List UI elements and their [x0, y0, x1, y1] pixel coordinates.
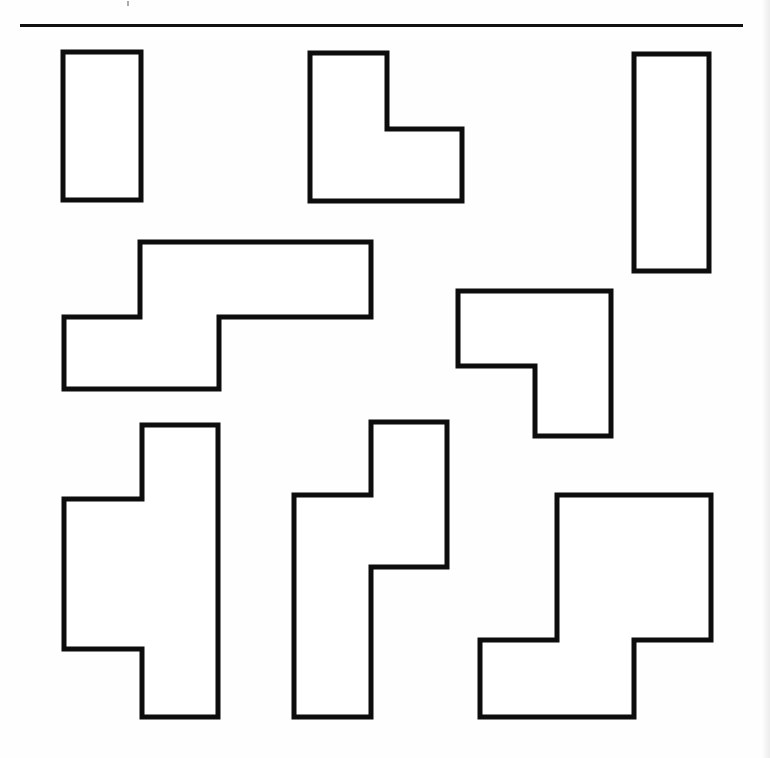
shape-vertical-rectangle-top-left[interactable]	[63, 52, 141, 200]
shape-l-shape-top-middle[interactable]	[310, 53, 462, 201]
shape-z-pentomino-bottom-right[interactable]	[480, 495, 711, 717]
shape-vertical-rectangle-top-right[interactable]	[634, 54, 709, 271]
paper-edge-shading	[762, 0, 770, 758]
shape-j-shape-middle-right[interactable]	[458, 291, 611, 436]
worksheet-page	[0, 0, 770, 758]
shape-s-pentomino-bottom-left[interactable]	[64, 425, 218, 717]
shape-n-pentomino-bottom-middle[interactable]	[294, 422, 447, 717]
shape-s-shape-middle-left[interactable]	[64, 242, 371, 389]
shapes-canvas	[0, 0, 770, 758]
